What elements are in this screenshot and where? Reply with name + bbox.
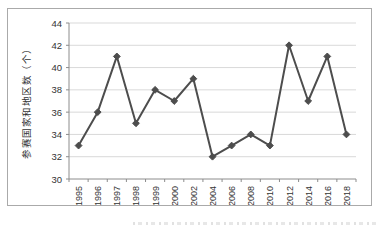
y-tick-label: 36 [51, 107, 62, 118]
x-tick-label: 1998 [131, 186, 141, 205]
data-point-marker [305, 98, 312, 105]
x-tick-label: 2006 [227, 186, 237, 205]
x-tick-label: 2004 [208, 186, 218, 205]
y-tick-label: 34 [51, 129, 62, 140]
data-point-marker [343, 131, 350, 138]
y-tick-label: 30 [51, 174, 62, 185]
x-tick-label: 1995 [74, 186, 84, 205]
x-tick-label: 2000 [170, 186, 180, 205]
x-tick-label: 2012 [285, 186, 295, 205]
x-tick-label: 1999 [151, 186, 161, 205]
x-tick-label: 2002 [189, 186, 199, 205]
data-point-marker [113, 53, 120, 60]
data-point-marker [286, 42, 293, 49]
x-tick-label: 2010 [265, 186, 275, 205]
x-tick-label: 1996 [93, 186, 103, 205]
line-chart: 3032343638404244199519961997199819992000… [8, 9, 371, 205]
x-tick-label: 2016 [323, 186, 333, 205]
y-tick-label: 32 [51, 151, 62, 162]
cropped-caption-remnant [133, 222, 376, 225]
y-tick-label: 40 [51, 62, 62, 73]
data-point-marker [324, 53, 331, 60]
y-tick-label: 44 [51, 18, 62, 29]
x-tick-label: 2014 [304, 186, 314, 205]
y-tick-label: 42 [51, 40, 62, 51]
x-tick-label: 2008 [246, 186, 256, 205]
x-tick-label: 2018 [342, 186, 352, 205]
screenshot-root: 3032343638404244199519961997199819992000… [0, 0, 380, 226]
y-axis-title: 参赛国家和地区数（个） [21, 43, 32, 159]
y-tick-label: 38 [51, 84, 62, 95]
x-tick-label: 1997 [112, 186, 122, 205]
line-chart-frame: 3032343638404244199519961997199819992000… [7, 8, 372, 206]
